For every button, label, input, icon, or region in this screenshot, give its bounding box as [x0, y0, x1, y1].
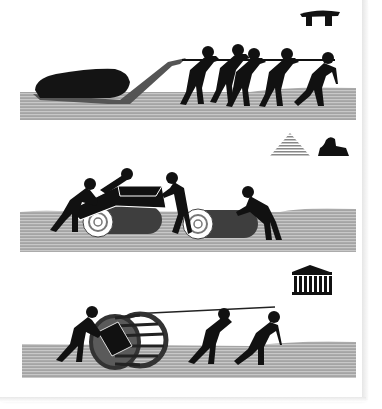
pyramid-sphinx-icon: [270, 133, 349, 156]
illustration-card: Megalithic (dolmen): [0, 0, 362, 397]
rope: [130, 307, 275, 314]
log-roller: [183, 209, 258, 239]
stone-block: [35, 69, 130, 98]
cage-wheel: [91, 314, 166, 368]
card-shadow-right: [362, 0, 368, 400]
greek-temple-icon: [292, 265, 332, 295]
panel-cage-wheel: Ancient Greece (temple): [0, 260, 362, 397]
dolmen-icon: [300, 10, 340, 26]
card-shadow-bottom: [0, 397, 366, 402]
panel-sledge: Megalithic (dolmen): [0, 0, 362, 130]
panel-rollers: Ancient Egypt (pyramid and sphinx): [0, 130, 362, 260]
